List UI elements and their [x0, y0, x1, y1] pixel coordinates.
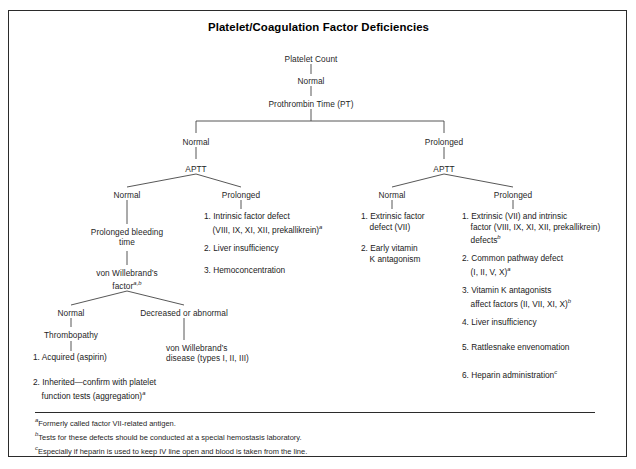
aptt-right-prolonged-item-3-superscript: b	[568, 298, 571, 304]
aptt-right-prolonged-item-5: 5. Rattlesnake envenomation	[462, 342, 631, 353]
node-platelet-count: Platelet Count	[285, 54, 338, 64]
footnote-list: aFormerly called factor VII-related anti…	[35, 415, 595, 457]
aptt-right-prolonged-item-1-text: 1. Extrinsic (VII) and intrinsic factor …	[462, 211, 600, 245]
aptt-right-prolonged-item-6-superscript: c	[554, 369, 557, 375]
node-vwf-normal: Normal	[57, 308, 84, 318]
thrombopathy-item-2: 2. Inherited—confirm with platelet funct…	[33, 377, 232, 401]
node-von-willebrand-factor: von Willebrand’sfactora,b	[96, 268, 158, 292]
aptt-right-prolonged-item-2: 2. Common pathway defect (I, II, V, X)a	[462, 253, 631, 277]
footnote-a-text: Formerly called factor VII-related antig…	[38, 419, 176, 428]
node-prothrombin-time: Prothrombin Time (PT)	[269, 99, 354, 109]
aptt-left-prolonged-item-3: 3. Hemoconcentration	[204, 265, 373, 276]
node-vwf-abnormal: Decreased or abnormal	[140, 308, 228, 318]
node-pt-normal: Normal	[182, 137, 209, 147]
aptt-right-prolonged-item-1-superscript: b	[497, 234, 500, 240]
node-aptt-left: APTT	[185, 164, 206, 174]
footnote-c: cEspecially if heparin is used to keep I…	[35, 443, 595, 457]
aptt-right-prolonged-item-6: 6. Heparin administrationc	[462, 367, 631, 380]
aptt-left-prolonged-item-1: 1. Intrinsic factor defect (VIII, IX, XI…	[204, 211, 373, 235]
node-platelet-normal: Normal	[297, 76, 324, 86]
vwf-line2: factor	[112, 281, 133, 291]
figure-title: Platelet/Coagulation Factor Deficiencies	[9, 21, 628, 33]
node-aptt-left-prolonged: Prolonged	[222, 190, 260, 200]
flowchart-canvas: Platelet/Coagulation Factor Deficiencies	[9, 11, 628, 458]
footnote-a: aFormerly called factor VII-related anti…	[35, 415, 595, 429]
node-aptt-right-prolonged: Prolonged	[494, 190, 532, 200]
aptt-right-prolonged-item-6-text: 6. Heparin administration	[462, 370, 554, 380]
aptt-right-prolonged-item-4: 4. Liver insufficiency	[462, 317, 631, 328]
footnote-divider	[35, 412, 595, 413]
vwf-superscript: a,b	[133, 280, 141, 286]
node-pt-prolonged: Prolonged	[425, 137, 463, 147]
node-aptt-left-normal: Normal	[113, 190, 140, 200]
thrombopathy-item-2-text: 2. Inherited—confirm with platelet funct…	[33, 377, 156, 400]
footnote-b: bTests for these defects should be condu…	[35, 429, 595, 443]
thrombopathy-item-2-superscript: a	[142, 390, 145, 396]
aptt-right-prolonged-item-2-text: 2. Common pathway defect (I, II, V, X)	[462, 253, 563, 276]
aptt-left-prolonged-item-1-superscript: a	[319, 224, 322, 230]
aptt-left-prolonged-item-1-text: 1. Intrinsic factor defect (VIII, IX, XI…	[204, 211, 319, 234]
aptt-left-prolonged-item-2: 2. Liver insufficiency	[204, 243, 373, 254]
vwf-line1: von Willebrand’s	[96, 268, 158, 278]
figure-panel: Platelet/Coagulation Factor Deficiencies	[8, 10, 627, 457]
node-thrombopathy: Thrombopathy	[44, 330, 98, 340]
node-aptt-right-normal: Normal	[378, 190, 405, 200]
footnote-c-text: Especially if heparin is used to keep IV…	[38, 447, 307, 456]
aptt-right-prolonged-item-3-text: 3. Vitamin K antagonists affect factors …	[462, 285, 568, 308]
aptt-right-prolonged-item-3: 3. Vitamin K antagonists affect factors …	[462, 285, 631, 309]
footnote-b-text: Tests for these defects should be conduc…	[38, 433, 301, 442]
node-aptt-right: APTT	[433, 164, 454, 174]
node-prolonged-bleeding-time: Prolonged bleeding time	[91, 227, 163, 248]
aptt-right-prolonged-item-2-superscript: a	[507, 266, 510, 272]
thrombopathy-item-1: 1. Acquired (aspirin)	[33, 352, 232, 363]
aptt-right-prolonged-item-1: 1. Extrinsic (VII) and intrinsic factor …	[462, 211, 631, 246]
